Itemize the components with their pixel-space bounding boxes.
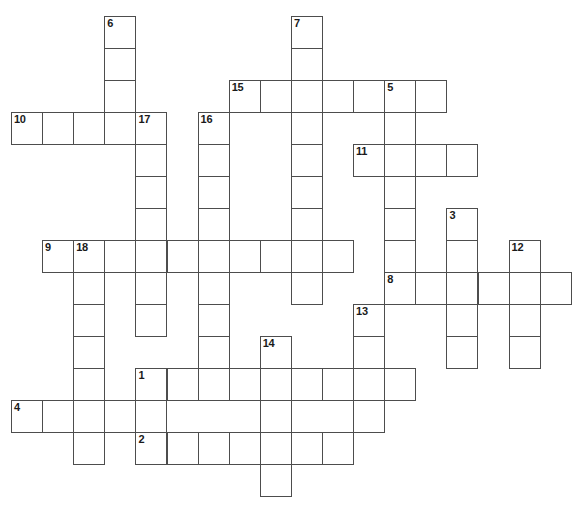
grid-cell[interactable] xyxy=(198,368,230,401)
grid-cell[interactable] xyxy=(198,304,230,337)
grid-cell[interactable] xyxy=(540,272,572,305)
grid-cell[interactable] xyxy=(198,272,230,305)
grid-cell[interactable]: 1 xyxy=(135,368,167,401)
grid-cell[interactable] xyxy=(104,400,136,433)
grid-cell[interactable] xyxy=(42,112,74,145)
grid-cell[interactable]: 14 xyxy=(260,336,292,369)
grid-cell[interactable] xyxy=(509,336,541,369)
grid-cell[interactable] xyxy=(446,336,478,369)
grid-cell[interactable]: 9 xyxy=(42,240,74,273)
grid-cell[interactable]: 5 xyxy=(384,80,416,113)
grid-cell[interactable] xyxy=(322,432,354,465)
grid-cell[interactable]: 8 xyxy=(384,272,416,305)
grid-cell[interactable]: 2 xyxy=(135,432,167,465)
clue-number: 16 xyxy=(201,113,213,126)
grid-cell[interactable] xyxy=(353,336,385,369)
grid-cell[interactable] xyxy=(353,368,385,401)
grid-cell[interactable] xyxy=(260,80,292,113)
grid-cell[interactable] xyxy=(446,272,478,305)
grid-cell[interactable] xyxy=(135,176,167,209)
grid-cell[interactable] xyxy=(291,48,323,81)
grid-cell[interactable] xyxy=(198,144,230,177)
grid-cell[interactable] xyxy=(353,80,385,113)
grid-cell[interactable] xyxy=(135,272,167,305)
grid-cell[interactable] xyxy=(260,400,292,433)
grid-cell[interactable] xyxy=(291,272,323,305)
grid-cell[interactable] xyxy=(104,48,136,81)
clue-number: 6 xyxy=(107,17,113,30)
grid-cell[interactable] xyxy=(260,432,292,465)
grid-cell[interactable] xyxy=(384,368,416,401)
grid-cell[interactable] xyxy=(291,112,323,145)
grid-cell[interactable] xyxy=(291,208,323,241)
grid-cell[interactable] xyxy=(478,272,510,305)
grid-cell[interactable]: 17 xyxy=(135,112,167,145)
grid-cell[interactable] xyxy=(415,272,447,305)
grid-cell[interactable] xyxy=(415,144,447,177)
grid-cell[interactable] xyxy=(229,240,261,273)
grid-cell[interactable] xyxy=(291,432,323,465)
grid-cell[interactable] xyxy=(104,240,136,273)
grid-cell[interactable] xyxy=(135,240,167,273)
grid-cell[interactable] xyxy=(135,400,167,433)
grid-cell[interactable] xyxy=(104,112,136,145)
grid-cell[interactable] xyxy=(198,336,230,369)
grid-cell[interactable] xyxy=(291,368,323,401)
grid-cell[interactable]: 6 xyxy=(104,16,136,49)
grid-cell[interactable] xyxy=(291,80,323,113)
grid-cell[interactable] xyxy=(73,432,105,465)
grid-cell[interactable] xyxy=(384,208,416,241)
grid-cell[interactable] xyxy=(229,368,261,401)
grid-cell[interactable] xyxy=(260,464,292,497)
grid-cell[interactable]: 18 xyxy=(73,240,105,273)
grid-cell[interactable] xyxy=(167,432,199,465)
grid-cell[interactable]: 12 xyxy=(509,240,541,273)
grid-cell[interactable]: 10 xyxy=(11,112,43,145)
grid-cell[interactable] xyxy=(322,368,354,401)
grid-cell[interactable] xyxy=(322,80,354,113)
grid-cell[interactable] xyxy=(73,272,105,305)
grid-cell[interactable] xyxy=(384,112,416,145)
grid-cell[interactable] xyxy=(167,240,199,273)
grid-cell[interactable] xyxy=(229,432,261,465)
grid-cell[interactable] xyxy=(198,208,230,241)
grid-cell[interactable] xyxy=(135,208,167,241)
grid-cell[interactable]: 15 xyxy=(229,80,261,113)
grid-cell[interactable] xyxy=(73,368,105,401)
grid-cell[interactable] xyxy=(198,176,230,209)
grid-cell[interactable] xyxy=(291,176,323,209)
grid-cell[interactable] xyxy=(260,368,292,401)
grid-cell[interactable] xyxy=(291,144,323,177)
grid-cell[interactable]: 16 xyxy=(198,112,230,145)
grid-cell[interactable] xyxy=(104,80,136,113)
grid-cell[interactable]: 11 xyxy=(353,144,385,177)
grid-cell[interactable] xyxy=(135,144,167,177)
grid-cell[interactable] xyxy=(73,336,105,369)
grid-cell[interactable]: 4 xyxy=(11,400,43,433)
grid-cell[interactable] xyxy=(135,304,167,337)
grid-cell[interactable] xyxy=(446,304,478,337)
grid-cell[interactable]: 3 xyxy=(446,208,478,241)
grid-cell[interactable] xyxy=(260,240,292,273)
grid-cell[interactable] xyxy=(384,144,416,177)
grid-cell[interactable] xyxy=(446,144,478,177)
grid-cell[interactable]: 7 xyxy=(291,16,323,49)
grid-cell[interactable] xyxy=(353,400,385,433)
grid-cell[interactable]: 13 xyxy=(353,304,385,337)
grid-cell[interactable] xyxy=(73,112,105,145)
grid-cell[interactable] xyxy=(384,240,416,273)
grid-cell[interactable] xyxy=(509,304,541,337)
grid-cell[interactable] xyxy=(198,240,230,273)
grid-cell[interactable] xyxy=(509,272,541,305)
grid-cell[interactable] xyxy=(167,368,199,401)
grid-cell[interactable] xyxy=(73,400,105,433)
clue-number: 9 xyxy=(45,241,51,254)
grid-cell[interactable] xyxy=(446,240,478,273)
grid-cell[interactable] xyxy=(322,240,354,273)
grid-cell[interactable] xyxy=(415,80,447,113)
grid-cell[interactable] xyxy=(291,240,323,273)
grid-cell[interactable] xyxy=(384,176,416,209)
grid-cell[interactable] xyxy=(73,304,105,337)
grid-cell[interactable] xyxy=(198,432,230,465)
grid-cell[interactable] xyxy=(42,400,74,433)
